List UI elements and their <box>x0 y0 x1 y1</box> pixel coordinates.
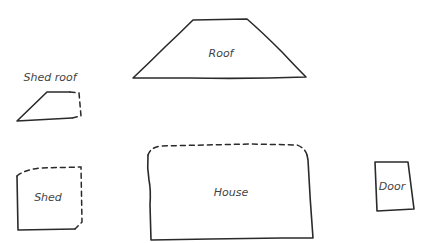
roof-label: Roof <box>209 47 234 60</box>
shed-label: Shed <box>34 191 62 204</box>
sketch-drawing <box>0 0 434 243</box>
diagram-canvas: Roof Shed roof Shed House Door <box>0 0 434 243</box>
shed-roof-label: Shed roof <box>23 71 76 84</box>
house-label: House <box>214 186 248 199</box>
door-label: Door <box>379 180 405 193</box>
shed-roof-shape <box>17 92 81 121</box>
